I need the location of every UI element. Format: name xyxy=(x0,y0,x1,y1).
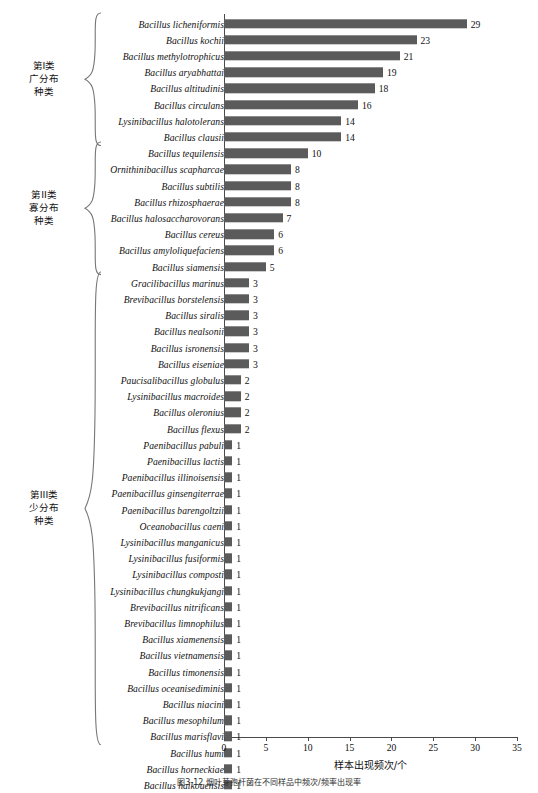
species-label: Brevibacillus borstelensis xyxy=(124,293,224,304)
bar-row: Gracilibacillus marinus3 xyxy=(0,275,538,291)
bar-row: Lysinibacillus manganicus1 xyxy=(0,534,538,550)
bar xyxy=(224,586,232,595)
species-label: Paenibacillus illinoisensis xyxy=(122,472,224,483)
bar-value-label: 16 xyxy=(362,99,372,110)
bar-value-label: 1 xyxy=(236,569,241,580)
bar xyxy=(224,294,249,303)
bar-value-label: 14 xyxy=(345,131,355,142)
bar xyxy=(224,667,232,676)
species-label: Bacillus subtilis xyxy=(162,180,224,191)
bar-value-label: 3 xyxy=(253,342,258,353)
x-axis-tick xyxy=(391,737,392,741)
bar-value-label: 14 xyxy=(345,115,355,126)
bar-row: Paenibacillus lactis1 xyxy=(0,453,538,469)
x-axis-title: 样本出现频次/个 xyxy=(224,757,517,772)
bar xyxy=(224,197,291,206)
species-label: Lysinibacillus chungkukjangi xyxy=(110,585,224,596)
bar-row: Bacillus halosaccharovorans7 xyxy=(0,210,538,226)
bar-row: Bacillus clausii14 xyxy=(0,129,538,145)
bar-row: Paenibacillus pabuli1 xyxy=(0,437,538,453)
bar-value-label: 1 xyxy=(236,520,241,531)
bar-row: Bacillus eiseniae3 xyxy=(0,356,538,372)
bar-value-label: 1 xyxy=(236,682,241,693)
species-label: Bacillus tequilensis xyxy=(148,148,224,159)
species-label: Bacillus kochii xyxy=(166,34,224,45)
bar xyxy=(224,537,232,546)
species-label: Bacillus rhizosphaerae xyxy=(134,196,224,207)
bar-value-label: 1 xyxy=(236,666,241,677)
x-axis-tick xyxy=(475,737,476,741)
bar-row: Bacillus siamensis5 xyxy=(0,259,538,275)
x-axis-tick xyxy=(517,737,518,741)
species-label: Bacillus timonensis xyxy=(148,666,224,677)
bar-value-label: 2 xyxy=(245,407,250,418)
bar xyxy=(224,278,249,287)
bar-row: Lysinibacillus composti1 xyxy=(0,566,538,582)
bar-row: Bacillus timonensis1 xyxy=(0,664,538,680)
bar-row: Lysinibacillus fusiformis1 xyxy=(0,550,538,566)
bar-row: Bacillus isronensis3 xyxy=(0,340,538,356)
bar xyxy=(224,343,249,352)
bar-value-label: 1 xyxy=(236,472,241,483)
bar-value-label: 1 xyxy=(236,439,241,450)
bar xyxy=(224,246,274,255)
species-label: Bacillus clausii xyxy=(164,131,224,142)
species-label: Bacillus eiseniae xyxy=(158,358,224,369)
bar-value-label: 1 xyxy=(236,715,241,726)
bar xyxy=(224,456,232,465)
x-axis-tick-label: 20 xyxy=(387,742,397,753)
bar-value-label: 1 xyxy=(236,585,241,596)
bar-row: Bacillus amyloliquefaciens6 xyxy=(0,242,538,258)
bar xyxy=(224,213,283,222)
bar-row: Bacillus aryabhattai19 xyxy=(0,64,538,80)
bar xyxy=(224,489,232,498)
x-axis-tick-label: 30 xyxy=(470,742,480,753)
bar-row: Bacillus oceanisediminis1 xyxy=(0,680,538,696)
bar-value-label: 6 xyxy=(278,229,283,240)
bar-row: Bacillus mesophilum1 xyxy=(0,712,538,728)
species-label: Oceanobacillus caeni xyxy=(140,520,224,531)
bar-row: Bacillus licheniformis29 xyxy=(0,16,538,32)
bar xyxy=(224,651,232,660)
bar-value-label: 2 xyxy=(245,374,250,385)
bar xyxy=(224,100,358,109)
species-label: Bacillus licheniformis xyxy=(138,18,224,29)
bar-value-label: 29 xyxy=(471,18,481,29)
figure-caption: 图3-12 烟叶芽孢杆菌在不同样品中频次/频率出现率 xyxy=(0,776,538,787)
x-axis-tick-label: 35 xyxy=(512,742,522,753)
bar-row: Bacillus flexus2 xyxy=(0,421,538,437)
bar-row: Bacillus xiamenensis1 xyxy=(0,631,538,647)
bar-row: Bacillus siralis3 xyxy=(0,307,538,323)
bar-row: Bacillus subtilis8 xyxy=(0,178,538,194)
bar-value-label: 3 xyxy=(253,358,258,369)
bar-value-label: 7 xyxy=(287,212,292,223)
species-label: Bacillus oceanisediminis xyxy=(127,682,224,693)
bar-value-label: 19 xyxy=(387,67,397,78)
bar xyxy=(224,683,232,692)
species-label: Lysinibacillus manganicus xyxy=(120,536,224,547)
bar xyxy=(224,408,241,417)
species-label: Paucisalibacillus globulus xyxy=(121,374,224,385)
bar-value-label: 1 xyxy=(236,488,241,499)
x-axis-tick-label: 0 xyxy=(222,742,227,753)
bar-row: Oceanobacillus caeni1 xyxy=(0,518,538,534)
bar xyxy=(224,440,232,449)
bar-row: Bacillus vietnamensis1 xyxy=(0,647,538,663)
bar xyxy=(224,51,400,60)
x-axis-tick xyxy=(266,737,267,741)
x-axis-tick xyxy=(308,737,309,741)
species-label: Bacillus altitudinis xyxy=(150,83,224,94)
species-label: Bacillus oleronius xyxy=(153,407,224,418)
bar-row: Bacillus rhizosphaerae8 xyxy=(0,194,538,210)
bar xyxy=(224,732,232,741)
species-label: Bacillus niacini xyxy=(163,698,224,709)
species-label: Bacillus marisflavi xyxy=(150,731,224,742)
bar-row: Paenibacillus ginsengiterrae1 xyxy=(0,485,538,501)
bar-value-label: 8 xyxy=(295,164,300,175)
species-label: Lysinibacillus macroides xyxy=(127,391,224,402)
bar-row: Brevibacillus nitrificans1 xyxy=(0,599,538,615)
bar-value-label: 8 xyxy=(295,196,300,207)
bar-value-label: 1 xyxy=(236,650,241,661)
species-label: Lysinibacillus composti xyxy=(132,569,224,580)
species-label: Brevibacillus limnophilus xyxy=(124,617,224,628)
